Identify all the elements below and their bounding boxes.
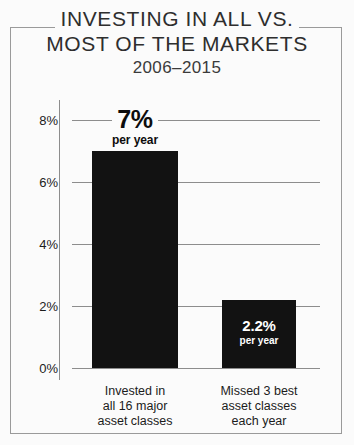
ytick-label-6pct: 6% bbox=[14, 176, 58, 189]
chart-title-line-2: MOST OF THE MARKETS bbox=[0, 31, 354, 56]
category-label-invested-all-16: Invested in all 16 major asset classes bbox=[82, 384, 188, 429]
y-axis-line bbox=[59, 100, 60, 380]
bar-invested-all-16[interactable] bbox=[92, 151, 178, 368]
value-label-bar-1-percent: 2.2% bbox=[222, 317, 296, 334]
value-label-bar-0-percent: 7% bbox=[112, 106, 158, 132]
chart-title-line-1-text: INVESTING IN ALL VS. bbox=[55, 6, 300, 31]
chart-title-block: INVESTING IN ALL VS. MOST OF THE MARKETS… bbox=[0, 6, 354, 79]
chart-canvas: INVESTING IN ALL VS. MOST OF THE MARKETS… bbox=[0, 0, 354, 445]
ytick-label-0pct: 0% bbox=[14, 362, 58, 375]
chart-title-line-1: INVESTING IN ALL VS. bbox=[0, 6, 354, 31]
category-label-1-line-2: asset classes bbox=[206, 399, 312, 414]
value-label-bar-0-peryear: per year bbox=[92, 133, 178, 147]
ytick-label-8pct: 8% bbox=[14, 114, 58, 127]
value-label-bar-0: 7% per year bbox=[92, 106, 178, 147]
gridline-0pct bbox=[72, 368, 320, 369]
ytick-label-4pct: 4% bbox=[14, 238, 58, 251]
value-label-bar-1: 2.2% per year bbox=[222, 317, 296, 347]
category-label-0-line-1: Invested in bbox=[82, 384, 188, 399]
value-label-bar-1-peryear: per year bbox=[222, 335, 296, 347]
category-label-missed-3-best: Missed 3 best asset classes each year bbox=[206, 384, 312, 429]
category-label-0-line-2: all 16 major bbox=[82, 399, 188, 414]
category-label-1-line-1: Missed 3 best bbox=[206, 384, 312, 399]
chart-subtitle: 2006–2015 bbox=[0, 57, 354, 79]
category-label-1-line-3: each year bbox=[206, 414, 312, 429]
category-label-0-line-3: asset classes bbox=[82, 414, 188, 429]
ytick-label-2pct: 2% bbox=[14, 300, 58, 313]
